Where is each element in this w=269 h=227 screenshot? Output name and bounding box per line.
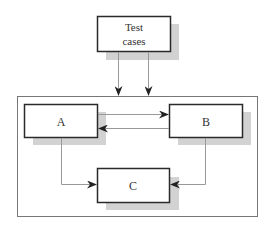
node-a: A: [25, 105, 107, 146]
node-c-label: C: [129, 179, 137, 193]
node-c: C: [98, 169, 180, 211]
diagram-canvas: Test cases A B C: [0, 0, 269, 227]
test-cases-label-line1: Test: [125, 21, 143, 33]
test-cases-node: Test cases: [98, 17, 180, 61]
node-b: B: [170, 105, 252, 146]
test-cases-label-line2: cases: [122, 35, 145, 47]
node-b-label: B: [202, 115, 210, 129]
node-a-label: A: [57, 115, 66, 129]
